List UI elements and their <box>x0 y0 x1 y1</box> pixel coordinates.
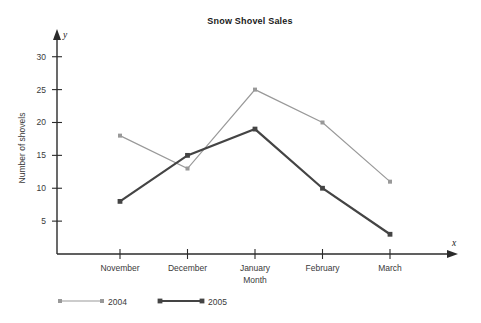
data-point-marker <box>118 199 123 204</box>
y-tick-label: 20 <box>37 117 47 127</box>
snow-shovel-sales-line-chart: Snow Shovel Sales y Number of shovels 51… <box>0 0 481 323</box>
legend-label: 2005 <box>208 297 227 307</box>
data-point-marker <box>321 120 325 124</box>
x-category-label: January <box>240 263 271 273</box>
x-category-label: February <box>305 263 340 273</box>
x-category-label: March <box>378 263 402 273</box>
y-axis-title: Number of shovels <box>17 113 27 184</box>
x-axis-title: Month <box>243 275 267 285</box>
x-category-label: December <box>168 263 207 273</box>
y-tick-label: 10 <box>37 183 47 193</box>
data-point-marker <box>388 232 393 237</box>
y-tick-label: 30 <box>37 52 47 62</box>
legend-marker <box>158 299 163 304</box>
data-point-marker <box>388 180 392 184</box>
y-axis-variable-label: y <box>62 30 68 40</box>
chart-background <box>0 0 481 323</box>
data-point-marker <box>320 186 325 191</box>
data-point-marker <box>185 153 190 158</box>
data-point-marker <box>118 134 122 138</box>
data-point-marker <box>186 167 190 171</box>
legend-marker <box>100 299 104 303</box>
data-point-marker <box>253 127 258 132</box>
y-tick-label: 15 <box>37 150 47 160</box>
chart-title: Snow Shovel Sales <box>207 16 292 26</box>
chart-container: Snow Shovel Sales y Number of shovels 51… <box>0 0 481 323</box>
legend-label: 2004 <box>108 297 127 307</box>
data-point-marker <box>253 88 257 92</box>
y-tick-label: 25 <box>37 85 47 95</box>
x-axis-variable-label: x <box>451 238 457 248</box>
legend-marker <box>58 299 62 303</box>
legend-marker <box>200 299 205 304</box>
x-category-label: November <box>100 263 139 273</box>
y-tick-label: 5 <box>41 216 46 226</box>
